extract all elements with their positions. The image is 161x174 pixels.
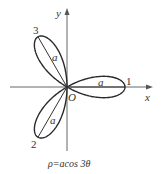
petal-2-label: 2 [31, 138, 37, 150]
petal-3-label: 3 [33, 24, 39, 36]
x-axis-arrow-icon [146, 85, 153, 90]
petal-2-radius-label: a [50, 114, 56, 126]
x-axis-label: x [144, 91, 150, 103]
polar-rose-chart: x y O 1 3 2 a a a ρ=acos 3θ [0, 0, 161, 174]
y-axis-arrow-icon [65, 8, 70, 15]
chart-caption: ρ=acos 3θ [47, 158, 90, 169]
y-axis-label: y [55, 7, 61, 19]
petal-3-radius-label: a [52, 51, 58, 63]
petal-1-radius-label: a [98, 76, 104, 88]
origin-label: O [68, 91, 76, 103]
petal-1-label: 1 [126, 75, 132, 87]
